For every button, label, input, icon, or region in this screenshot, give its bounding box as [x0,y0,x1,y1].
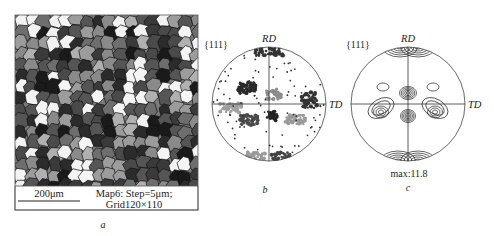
panel-b: {111} RD TD b [204,33,343,195]
pole-figure-c-max-label: max:11.8 [390,168,427,179]
panel-c-caption: c [406,182,411,193]
panel-a: 200μm Map6: Step=5μm; Grid120×110 a [12,12,209,230]
panel-b-caption: b [263,184,268,195]
map-info-line2: Grid120×110 [106,199,162,210]
panel-c: {111} RD TD max:11.8 c [346,33,482,193]
scale-bar-label: 200μm [34,188,64,199]
panel-c-rd-label: RD [400,33,415,44]
map-info-line1: Map6: Step=5μm; [96,188,173,199]
panel-c-td-label: TD [468,99,482,110]
ebsd-grain-map [12,12,209,198]
panel-b-td-label: TD [329,99,343,110]
panel-b-rd-label: RD [261,33,276,44]
panel-a-caption: a [101,219,106,230]
figure: 200μm Map6: Step=5μm; Grid120×110 a {111… [0,0,494,236]
panel-b-plane-label: {111} [204,39,228,50]
panel-c-plane-label: {111} [346,39,370,50]
